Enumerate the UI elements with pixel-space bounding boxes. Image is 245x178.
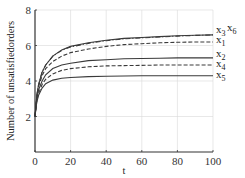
x-tick-label: 40 [101,155,113,167]
y-tick-label: 4 [26,75,32,87]
series-line-x4 [35,65,213,117]
series-line-x2 [35,58,213,117]
x-tick-label: 60 [136,155,148,167]
y-axis-label: Number of unsatisfiedorders [5,21,16,141]
x-axis-label: t [123,165,126,176]
x-tick-label: 100 [205,155,222,167]
y-tick-label: 8 [26,4,32,16]
series-line-x5 [35,76,213,117]
y-tick-label: 2 [26,111,32,123]
series-label-x6: x6 [227,21,237,36]
series-line-x1 [35,42,213,117]
series-labels: x3x6x1x2x4x5 [216,21,237,83]
x-tick-label: 0 [32,155,38,167]
grid-lines [35,10,213,152]
x-tick-label: 80 [172,155,184,167]
y-tick-label: 6 [26,40,32,52]
data-series [35,35,213,117]
line-chart: 020406080100 2468 t Number of unsatisfie… [0,0,245,178]
x-tick-label: 20 [65,155,77,167]
